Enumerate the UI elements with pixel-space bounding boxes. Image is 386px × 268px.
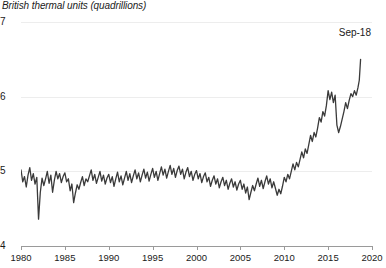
x-axis-tick (197, 246, 198, 250)
x-axis-label: 2005 (230, 252, 251, 263)
x-axis-tick (328, 246, 329, 250)
plot-area (21, 22, 372, 246)
x-axis-label: 1990 (98, 252, 119, 263)
x-axis-tick (21, 246, 22, 250)
x-axis-label: 1980 (10, 252, 31, 263)
y-axis-label: 7 (0, 16, 16, 27)
x-axis-tick (153, 246, 154, 250)
x-axis-label: 2015 (318, 252, 339, 263)
x-axis-tick (372, 246, 373, 250)
x-axis-tick (109, 246, 110, 250)
line-series (21, 22, 372, 246)
x-axis-label: 1985 (54, 252, 75, 263)
chart-title: British thermal units (quadrillions) (2, 0, 146, 11)
x-axis-label: 2010 (274, 252, 295, 263)
y-axis-label: 4 (0, 240, 16, 251)
x-axis-tick (65, 246, 66, 250)
chart-page: British thermal units (quadrillions) Sep… (0, 0, 386, 268)
x-axis-label: 1995 (142, 252, 163, 263)
x-axis-tick (240, 246, 241, 250)
x-axis-label: 2020 (361, 252, 382, 263)
series-polyline (21, 59, 361, 219)
x-axis-tick (284, 246, 285, 250)
y-axis-label: 6 (0, 91, 16, 102)
y-axis-label: 5 (0, 165, 16, 176)
x-axis-label: 2000 (186, 252, 207, 263)
